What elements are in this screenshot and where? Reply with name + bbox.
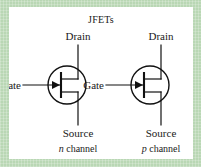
n-channel-symbol-group: Drain Source [9,30,98,154]
n-gate-arrowhead-in [52,81,60,89]
jfet-diagram: JFETs Drain Source [9,7,193,159]
figure-title: JFETs [88,14,114,25]
p-source-label: Source [146,127,177,139]
n-channel-caption: n channel [59,143,98,154]
figure-frame: JFETs Drain Source [0,0,201,167]
p-channel-caption: p channel [141,143,181,154]
p-gate-label: Gate [83,79,104,91]
n-channel-suffix: channel [64,143,98,154]
p-gate-arrowhead-out [135,81,143,89]
n-gate-label: Gate [9,79,21,91]
figure-panel: JFETs Drain Source [9,7,193,159]
n-source-label: Source [63,127,94,139]
n-drain-label: Drain [65,30,91,42]
p-channel-suffix: channel [147,143,181,154]
p-channel-symbol-group: Drain Source [83,30,180,154]
p-drain-label: Drain [148,30,174,42]
